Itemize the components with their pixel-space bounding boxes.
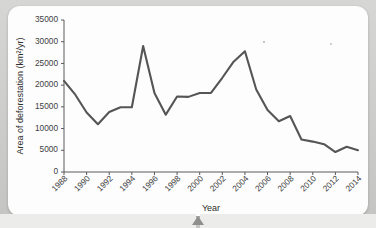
y-tick-label: 5000: [40, 144, 59, 154]
x-tick-label: 2004: [230, 173, 250, 193]
x-axis-ticks: 1988199019921994199619982000200220042006…: [49, 172, 363, 193]
x-tick-label: 2006: [253, 173, 273, 193]
x-tick-label: 2010: [298, 173, 318, 193]
x-tick-label: 2000: [185, 173, 205, 193]
x-tick-label: 1990: [72, 173, 92, 193]
x-tick-label: 2008: [275, 173, 295, 193]
data-line-series: [64, 46, 358, 152]
y-axis-ticks: 05000100001500020000250003000035000: [35, 14, 64, 176]
y-tick-label: 35000: [35, 14, 58, 24]
bottom-strip-left: [0, 214, 196, 228]
artifact-speck: [330, 43, 332, 45]
x-tick-label: 2002: [208, 173, 228, 193]
page-background: 05000100001500020000250003000035000 1988…: [0, 0, 376, 228]
x-tick-label: 1998: [162, 173, 182, 193]
x-tick-label: 2014: [343, 173, 363, 193]
artifact-speck: [263, 41, 265, 43]
y-tick-label: 30000: [35, 36, 58, 46]
y-tick-label: 20000: [35, 79, 58, 89]
x-tick-label: 1996: [140, 173, 160, 193]
x-tick-label: 2012: [321, 173, 341, 193]
x-tick-label: 1988: [49, 173, 69, 193]
y-tick-label: 0: [53, 166, 58, 176]
up-arrow-icon: [192, 216, 204, 225]
x-tick-label: 1992: [95, 173, 115, 193]
y-tick-label: 15000: [35, 101, 58, 111]
bottom-strip-right: [200, 214, 376, 228]
deforestation-line-chart: 05000100001500020000250003000035000 1988…: [8, 6, 368, 216]
y-axis-title: Area of deforestation (km²/yr): [15, 37, 25, 154]
x-tick-label: 1994: [117, 173, 137, 193]
y-tick-label: 25000: [35, 58, 58, 68]
y-tick-label: 10000: [35, 123, 58, 133]
x-axis-title: Year: [202, 203, 220, 213]
